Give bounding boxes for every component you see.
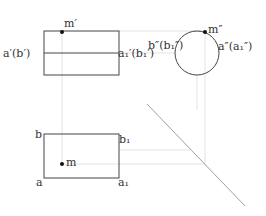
- diagonal-45-line: [147, 104, 245, 206]
- top-view-rect: [44, 134, 119, 178]
- label-top-b: b: [35, 129, 42, 140]
- point-m-double-prime: [203, 30, 207, 34]
- label-top-b1: b₁: [119, 134, 130, 145]
- label-side-left: b″(b₁″): [148, 40, 183, 51]
- point-m: [60, 162, 64, 166]
- label-m-double-prime: m″: [208, 24, 223, 35]
- label-top-a1: a₁: [118, 177, 129, 188]
- side-view-circle: [175, 31, 219, 75]
- label-side-right: a″(a₁″): [218, 41, 252, 52]
- label-top-a: a: [36, 177, 43, 188]
- front-view: [44, 31, 119, 75]
- point-m-prime: [60, 30, 64, 34]
- label-front-left: a′(b′): [3, 48, 30, 59]
- label-m-prime: m′: [64, 18, 77, 29]
- label-m: m: [66, 157, 76, 168]
